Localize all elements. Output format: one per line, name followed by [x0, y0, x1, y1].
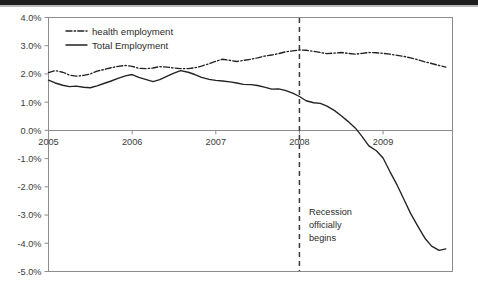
x-tick-label: 2009	[373, 137, 393, 147]
x-tick-label: 2007	[206, 137, 226, 147]
y-tick-label: -5.0%	[17, 267, 41, 277]
y-tick-label: -4.0%	[17, 239, 41, 249]
y-tick-label: 0.0%	[21, 126, 42, 136]
y-tick-label: 2.0%	[21, 69, 42, 79]
chart-figure: -5.0%-4.0%-3.0%-2.0%-1.0%0.0%1.0%2.0%3.0…	[0, 0, 478, 290]
legend-label-total-employment: Total Employment	[92, 40, 169, 51]
x-axis: 20052006200720082009	[38, 130, 393, 147]
y-tick-label: -1.0%	[17, 154, 41, 164]
chart-legend: health employment Total Employment	[66, 26, 173, 51]
x-tick-label: 2006	[122, 137, 142, 147]
y-tick-label: -3.0%	[17, 210, 41, 220]
x-tick-label: 2005	[38, 137, 58, 147]
recession-annotation-line-2: officially	[309, 220, 342, 230]
y-tick-label: 1.0%	[21, 98, 42, 108]
series-line-total-employment	[49, 71, 446, 251]
y-tick-label: 3.0%	[21, 41, 42, 51]
y-tick-label: -2.0%	[17, 182, 41, 192]
recession-annotation-line-3: begins	[309, 233, 336, 243]
legend-label-health-employment: health employment	[92, 26, 173, 37]
recession-annotation-line-1: Recession	[309, 207, 352, 217]
y-tick-label: 4.0%	[21, 13, 42, 23]
series-line-health-employment	[49, 50, 446, 76]
recession-annotation: Recession officially begins	[309, 207, 352, 243]
top-border-edge	[0, 5, 478, 7]
employment-growth-line-chart: -5.0%-4.0%-3.0%-2.0%-1.0%0.0%1.0%2.0%3.0…	[0, 0, 478, 290]
